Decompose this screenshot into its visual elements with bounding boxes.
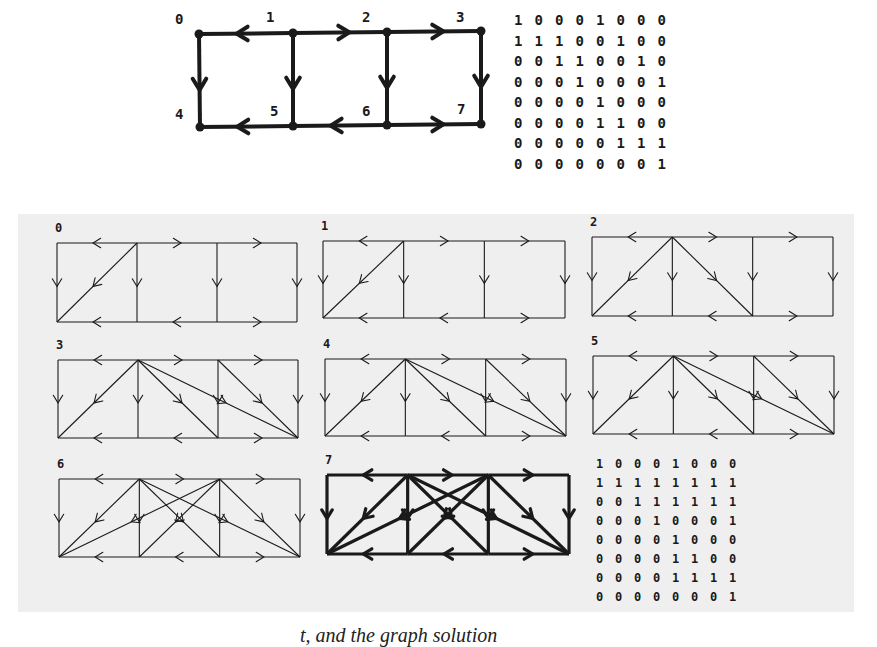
matrix-cell: 0: [590, 31, 611, 52]
matrix-cell: 1: [685, 550, 704, 569]
graph-node: [289, 122, 298, 131]
matrix-cell: 0: [609, 588, 628, 607]
matrix-cell: 1: [611, 133, 632, 154]
graph-edge: [754, 356, 834, 434]
matrix-cell: 0: [570, 31, 591, 52]
matrix-cell: 1: [590, 455, 609, 474]
matrix-cell: 0: [529, 154, 550, 175]
matrix-cell: 0: [652, 51, 673, 72]
matrix-cell: 0: [609, 512, 628, 531]
matrix-cell: 1: [590, 113, 611, 134]
graph-edge: [58, 360, 138, 438]
matrix-cell: 1: [570, 72, 591, 93]
matrix-cell: 0: [652, 92, 673, 113]
matrix-row: 00010001: [590, 512, 742, 531]
matrix-cell: 1: [631, 51, 652, 72]
graph-edge: [199, 33, 293, 34]
matrix-cell: 0: [628, 569, 647, 588]
matrix-cell: 0: [590, 154, 611, 175]
matrix-row: 00001100: [590, 550, 742, 569]
node-label: 0: [175, 11, 183, 27]
matrix-cell: 0: [549, 113, 570, 134]
graph-node: [383, 28, 392, 37]
matrix-cell: 0: [652, 113, 673, 134]
matrix-cell: 0: [723, 531, 742, 550]
matrix-cell: 1: [704, 474, 723, 493]
matrix-cell: 0: [549, 72, 570, 93]
step-panel-6: 6: [54, 457, 304, 562]
matrix-cell: 0: [704, 531, 723, 550]
graph-edge: [327, 475, 408, 554]
matrix-cell: 0: [570, 10, 591, 31]
matrix-cell: 0: [611, 51, 632, 72]
graph-edge: [672, 237, 752, 316]
matrix-cell: 0: [628, 512, 647, 531]
matrix-cell: 0: [590, 512, 609, 531]
matrix-row: 00110010: [508, 51, 672, 72]
graph-edge: [293, 125, 387, 126]
matrix-cell: 1: [685, 569, 704, 588]
graph-node: [477, 120, 486, 129]
matrix-cell: 0: [628, 531, 647, 550]
matrix-cell: 1: [704, 493, 723, 512]
matrix-cell: 1: [723, 493, 742, 512]
matrix-row: 00001111: [590, 569, 742, 588]
matrix-cell: 1: [666, 569, 685, 588]
matrix-row: 00010001: [508, 72, 672, 93]
node-label: 2: [362, 9, 370, 25]
node-label: 3: [456, 9, 464, 25]
graph-node: [196, 123, 205, 132]
step-label: 7: [325, 453, 332, 467]
matrix-cell: 0: [549, 133, 570, 154]
matrix-cell: 1: [508, 31, 529, 52]
graph-node: [477, 27, 486, 36]
matrix-row: 00001000: [590, 531, 742, 550]
matrix-row: 00001100: [508, 113, 672, 134]
step-label: 2: [590, 215, 597, 229]
matrix-cell: 0: [508, 51, 529, 72]
matrix-cell: 1: [685, 493, 704, 512]
matrix-cell: 0: [628, 588, 647, 607]
matrix-cell: 1: [647, 474, 666, 493]
matrix-cell: 1: [666, 455, 685, 474]
matrix-cell: 0: [508, 154, 529, 175]
matrix-cell: 0: [590, 588, 609, 607]
matrix-cell: 0: [590, 51, 611, 72]
graph-node: [195, 30, 204, 39]
matrix-cell: 0: [647, 531, 666, 550]
matrix-cell: 0: [529, 133, 550, 154]
matrix-row: 00000001: [590, 588, 742, 607]
matrix-cell: 0: [529, 113, 550, 134]
matrix-cell: 0: [723, 550, 742, 569]
graph-edge: [325, 359, 405, 436]
matrix-cell: 0: [570, 133, 591, 154]
matrix-cell: 1: [647, 512, 666, 531]
graph-edge: [138, 360, 218, 438]
matrix-cell: 0: [529, 92, 550, 113]
graph-edge: [673, 356, 753, 434]
matrix-cell: 0: [590, 493, 609, 512]
matrix-cell: 0: [631, 10, 652, 31]
matrix-cell: 0: [704, 550, 723, 569]
matrix-cell: 1: [590, 10, 611, 31]
graph-edge: [220, 479, 300, 557]
graph-edge: [293, 32, 387, 33]
matrix-cell: 1: [723, 512, 742, 531]
matrix-cell: 1: [529, 31, 550, 52]
matrix-cell: 0: [704, 512, 723, 531]
matrix-cell: 1: [723, 569, 742, 588]
matrix-row: 11111111: [590, 474, 742, 493]
step-panel-4: 4: [320, 337, 570, 441]
graph-node: [383, 121, 392, 130]
step-panel-1: 1: [318, 219, 569, 323]
matrix-row: 11100100: [508, 31, 672, 52]
matrix-cell: 0: [529, 10, 550, 31]
matrix-cell: 0: [549, 92, 570, 113]
matrix-cell: 0: [685, 588, 704, 607]
matrix-cell: 0: [685, 455, 704, 474]
matrix-cell: 0: [647, 550, 666, 569]
matrix-cell: 1: [590, 474, 609, 493]
matrix-cell: 0: [590, 550, 609, 569]
caption-text: t, and the graph solution: [300, 624, 877, 647]
matrix-cell: 0: [704, 455, 723, 474]
